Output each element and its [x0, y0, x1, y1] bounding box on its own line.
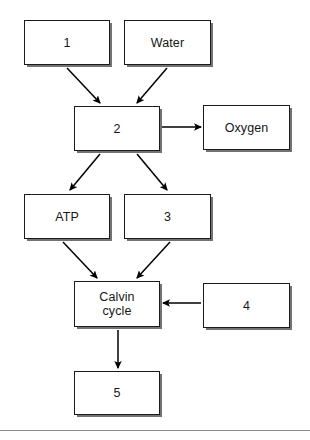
arrow-product3-to-calvin-cycle	[137, 242, 170, 278]
node-box-oxygen[interactable]: Oxygen	[203, 105, 290, 150]
node-box-output5[interactable]: 5	[74, 371, 160, 415]
node-box-process2[interactable]: 2	[74, 106, 160, 151]
arrow-process2-to-product3	[137, 154, 167, 190]
node-box-input4[interactable]: 4	[203, 283, 290, 328]
node-label-product3: 3	[164, 210, 171, 224]
node-box-product3[interactable]: 3	[124, 194, 211, 239]
node-label-oxygen: Oxygen	[225, 121, 269, 135]
node-label-output5: 5	[113, 386, 120, 400]
node-label-input1: 1	[63, 36, 70, 50]
node-box-calvin-cycle[interactable]: Calvin cycle	[74, 281, 160, 327]
arrow-input1-to-process2	[67, 68, 100, 103]
diagram-canvas: 1 Water 2 Oxygen ATP 3 Calvin cycle 4 5	[0, 0, 310, 440]
arrow-water-to-process2	[137, 68, 167, 103]
node-label-input4: 4	[243, 299, 250, 313]
node-box-input1[interactable]: 1	[24, 20, 110, 65]
node-label-atp: ATP	[55, 210, 79, 224]
node-box-water[interactable]: Water	[124, 20, 211, 65]
node-box-atp[interactable]: ATP	[24, 194, 110, 239]
footer-divider	[0, 430, 310, 431]
arrow-process2-to-atp	[70, 154, 100, 190]
node-label-water: Water	[151, 36, 184, 50]
arrow-atp-to-calvin-cycle	[63, 242, 97, 278]
node-label-calvin-cycle: Calvin cycle	[99, 290, 134, 318]
node-label-process2: 2	[113, 122, 120, 136]
